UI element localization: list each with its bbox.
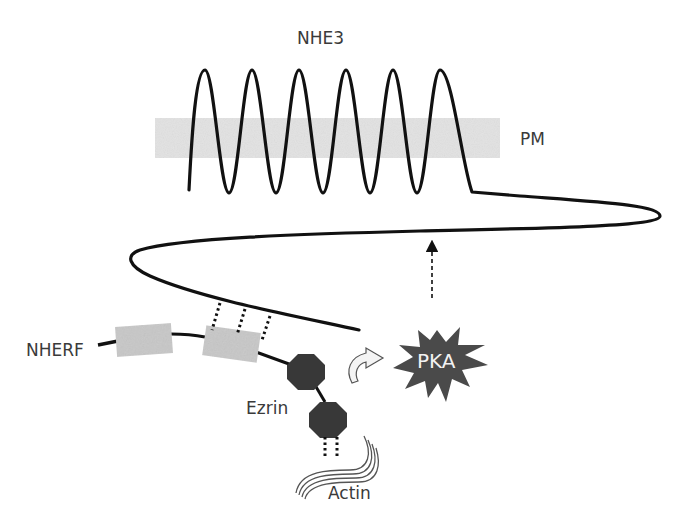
ezrin-domain-2 [309, 402, 347, 438]
nhe3-signaling-diagram [0, 0, 686, 521]
nherf-linker [171, 334, 205, 337]
pm-label: PM [520, 129, 545, 149]
actin-label: Actin [328, 483, 371, 503]
plasma-membrane [155, 118, 500, 158]
ezrin-actin-binding [325, 437, 337, 458]
nherf-label: NHERF [26, 340, 84, 360]
nhe3-transmembrane-loops [131, 70, 660, 330]
pka-label: PKA [417, 349, 456, 373]
nhe3-label: NHE3 [297, 28, 344, 48]
ezrin-label: Ezrin [246, 398, 288, 418]
nherf-pdz2-domain [202, 325, 261, 362]
nherf-pdz1-domain [115, 323, 173, 357]
ezrin-to-pka-arrow [349, 348, 383, 383]
ezrin-domain-1 [287, 354, 325, 390]
nherf-backbone [98, 341, 118, 345]
